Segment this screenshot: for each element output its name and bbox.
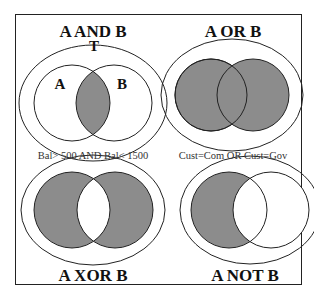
universe-label: T <box>84 38 104 55</box>
venn-or <box>161 39 303 151</box>
title-xor: A XOR B <box>48 266 138 286</box>
set-a-label: A <box>52 76 68 93</box>
title-or: A OR B <box>193 22 273 42</box>
condition-left: Bal> 500 AND Bal< 1500 <box>17 150 169 161</box>
venn-and <box>19 45 167 161</box>
venn-not <box>180 156 314 264</box>
venn-diagrams <box>0 0 314 293</box>
venn-xor <box>21 155 165 265</box>
set-b-label: B <box>114 76 130 93</box>
condition-right: Cust=Com OR Cust=Gov <box>165 150 301 161</box>
title-not: A NOT B <box>195 266 295 286</box>
